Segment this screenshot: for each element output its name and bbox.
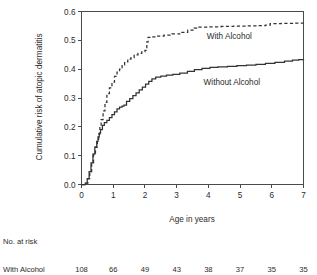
- risk-row-label-with-alcohol: With Alcohol: [3, 265, 45, 274]
- y-tick-label: 0.3: [64, 94, 76, 103]
- x-tick-label: 5: [238, 191, 243, 200]
- x-axis: 01234567: [79, 185, 306, 200]
- risk-value: 38: [204, 265, 212, 274]
- x-tick-label: 4: [206, 191, 211, 200]
- risk-value: 35: [268, 265, 276, 274]
- series-with-alcohol-line: [82, 23, 304, 184]
- risk-value: 66: [109, 265, 117, 274]
- risk-value: 35: [299, 265, 307, 274]
- risk-table-heading: No. at risk: [3, 237, 37, 246]
- y-tick-label: 0.1: [64, 152, 76, 161]
- x-tick-label: 3: [174, 191, 179, 200]
- risk-row-values: 10866494338373535: [75, 265, 308, 274]
- x-tick-label: 6: [270, 191, 275, 200]
- y-tick-label: 0.0: [64, 181, 76, 190]
- y-axis: 0.00.10.20.30.40.50.6: [64, 8, 81, 190]
- risk-value: 37: [236, 265, 244, 274]
- x-tick-label: 7: [301, 191, 306, 200]
- plot-frame: [82, 12, 304, 185]
- y-tick-label: 0.5: [64, 36, 76, 45]
- y-tick-label: 0.4: [64, 65, 76, 74]
- x-tick-label: 2: [143, 191, 148, 200]
- risk-value: 108: [75, 265, 88, 274]
- data-series-group: [82, 23, 304, 184]
- x-tick-label: 1: [111, 191, 116, 200]
- x-axis-title: Age in years: [169, 215, 215, 224]
- series-label-with-alcohol: With Alcohol: [207, 32, 252, 41]
- series-without-alcohol-line: [82, 59, 304, 184]
- y-tick-label: 0.2: [64, 123, 76, 132]
- series-label-without-alcohol: Without Alcohol: [204, 78, 261, 87]
- risk-value: 49: [141, 265, 149, 274]
- risk-value: 43: [172, 265, 180, 274]
- y-axis-title: Cumulative risk of atopic dermatitis: [35, 34, 44, 161]
- x-tick-label: 0: [79, 191, 84, 200]
- kaplan-meier-chart: 0.00.10.20.30.40.50.6 01234567 Cumulativ…: [0, 0, 317, 275]
- y-tick-label: 0.6: [64, 8, 76, 17]
